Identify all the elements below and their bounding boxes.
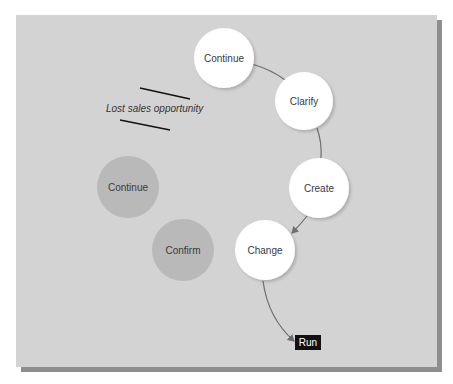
run-box[interactable]: Run — [295, 335, 321, 350]
connector-clarify-create — [317, 128, 321, 158]
run-label: Run — [299, 337, 317, 348]
node-continue[interactable]: Continue — [194, 28, 254, 88]
annotation-line-bottom — [120, 120, 170, 130]
node-label: Create — [304, 183, 334, 194]
node-label: Clarify — [290, 96, 318, 107]
annotation-line-top — [140, 88, 190, 99]
node-label: Continue — [108, 182, 148, 193]
node-clarify[interactable]: Clarify — [275, 72, 333, 130]
node-change[interactable]: Change — [235, 220, 295, 280]
node-label: Continue — [204, 53, 244, 64]
annotation-lost-sales: Lost sales opportunity — [106, 103, 204, 114]
node-label: Change — [247, 245, 282, 256]
node-confirm[interactable]: Confirm — [152, 219, 214, 281]
node-continue-lost[interactable]: Continue — [97, 156, 159, 218]
connector-create-change — [292, 216, 307, 233]
node-label: Confirm — [165, 245, 200, 256]
connector-change-run — [263, 281, 294, 341]
node-create[interactable]: Create — [289, 158, 349, 218]
cycle-diagram: Lost sales opportunity Continue Confirm … — [0, 0, 453, 384]
connector-continue-clarify — [252, 64, 285, 80]
